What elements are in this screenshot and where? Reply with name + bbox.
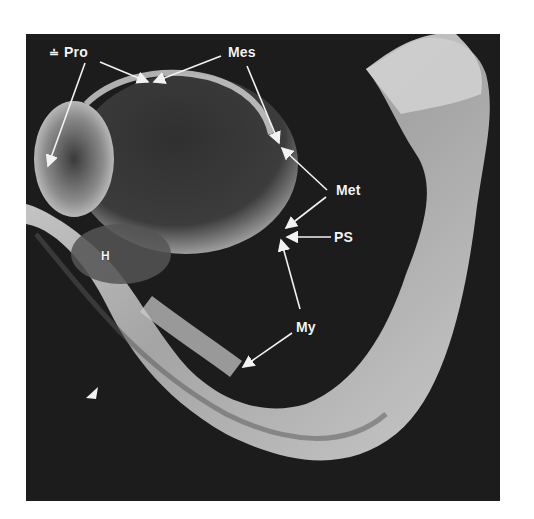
embryo-tissue <box>26 34 500 501</box>
micrograph-frame <box>26 34 500 501</box>
label-mes: Mes <box>228 44 256 60</box>
label-h: H <box>101 248 110 264</box>
label-pro: Pro <box>64 44 88 60</box>
label-my: My <box>296 319 316 335</box>
label-met: Met <box>336 182 361 198</box>
prefix-mark: ≐ <box>49 45 59 61</box>
label-ps: PS <box>334 229 353 245</box>
